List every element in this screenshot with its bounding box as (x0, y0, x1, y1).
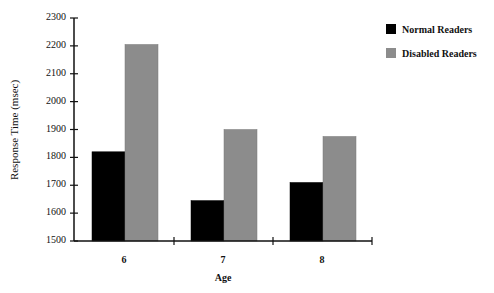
y-tick-label-1600: 1600 (26, 206, 66, 217)
legend-item-disabled-readers: Disabled Readers (386, 46, 477, 60)
y-tick-label-2200: 2200 (26, 39, 66, 50)
bar-chart: Response Time (msec) 1500160017001800190… (0, 0, 494, 293)
x-category-label-6: 6 (104, 254, 144, 265)
bar-normal-readers-age-6 (92, 152, 125, 241)
bar-disabled-readers-age-7 (224, 130, 257, 242)
legend-swatch-normal (386, 24, 396, 34)
bar-normal-readers-age-8 (290, 182, 323, 241)
y-tick-label-1800: 1800 (26, 150, 66, 161)
legend-label-normal: Normal Readers (402, 24, 472, 35)
y-axis-title: Response Time (msec) (8, 80, 20, 180)
y-tick-label-1900: 1900 (26, 123, 66, 134)
legend: Normal Readers Disabled Readers (386, 22, 477, 70)
y-tick-label-2100: 2100 (26, 67, 66, 78)
y-tick-label-1500: 1500 (26, 234, 66, 245)
y-tick-label-1700: 1700 (26, 178, 66, 189)
legend-item-normal-readers: Normal Readers (386, 22, 477, 36)
legend-swatch-disabled (386, 48, 396, 58)
legend-label-disabled: Disabled Readers (402, 48, 477, 59)
bar-normal-readers-age-7 (191, 201, 224, 241)
x-category-label-7: 7 (203, 254, 243, 265)
y-tick-label-2300: 2300 (26, 11, 66, 22)
x-category-label-8: 8 (302, 254, 342, 265)
bar-disabled-readers-age-6 (125, 44, 158, 241)
bar-disabled-readers-age-8 (323, 136, 356, 241)
y-tick-label-2000: 2000 (26, 95, 66, 106)
x-axis-title: Age (193, 272, 253, 283)
